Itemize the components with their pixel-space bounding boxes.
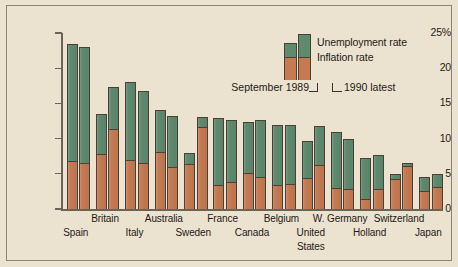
legend-swatch-group: September 1989 1990 latest [284,33,312,80]
legend-label-unemployment: Unemployment rate [317,36,407,48]
bar-segment-unemployment [420,178,429,193]
bar-segment-inflation [391,179,400,209]
bar-italy-sep-1989 [125,82,136,209]
bar-group [208,33,237,209]
bar-holland-sep-1989 [360,158,371,209]
bar-group [90,33,119,209]
bar-segment-unemployment [433,175,442,188]
bar-australia-1990-latest [167,116,178,209]
bar-france-1990-latest [226,120,237,209]
bar-segment-unemployment [97,115,106,155]
bar-switzerland-1990-latest [402,163,413,209]
bar-japan-1990-latest [432,174,443,209]
legend-note-september-1989: September 1989 [169,81,309,93]
bar-segment-unemployment [227,121,236,184]
bar-segment-unemployment [244,123,253,174]
bar-segment-inflation [126,160,135,209]
bar-group [120,33,149,209]
bar-united-states-sep-1989 [302,141,313,209]
bar-segment-unemployment [315,127,324,166]
bar-italy-1990-latest [138,91,149,209]
x-axis-label-japan: Japan [383,227,458,238]
bar-group [149,33,178,209]
leader-line-left-horizontal [309,91,318,92]
bar-segment-unemployment [126,83,135,161]
bar-segment-inflation [244,173,253,209]
bar-belgium-1990-latest [285,125,296,209]
bar-segment-inflation [97,154,106,209]
bar-segment-unemployment [286,126,295,185]
bar-segment-inflation [214,185,223,209]
legend-swatch-unemployment-a [285,44,296,58]
legend-swatch-inflation-b [299,57,310,80]
bar-britain-1990-latest [108,87,119,209]
x-axis-line [61,209,443,211]
bar-segment-inflation [420,191,429,209]
legend-swatch-1990-latest [298,34,311,80]
bar-segment-unemployment [361,159,370,200]
bar-united-states-1990-latest [314,126,325,209]
bar-spain-1990-latest [79,47,90,209]
bar-segment-unemployment [344,140,353,191]
bar-segment-unemployment [68,45,77,163]
bar-spain-sep-1989 [67,44,78,209]
bar-segment-unemployment [332,133,341,189]
bar-segment-inflation [227,182,236,209]
bar-france-sep-1989 [213,118,224,209]
bar-segment-inflation [433,187,442,209]
bar-belgium-sep-1989 [272,125,283,209]
bar-segment-unemployment [374,156,383,190]
bar-segment-inflation [286,184,295,209]
bar-segment-unemployment [273,126,282,186]
chart-plate: 0510152025% SpainBritainItalyAustraliaSw… [6,5,452,261]
legend-swatch-unemployment-b [299,35,310,58]
bar-segment-inflation [256,177,265,209]
bar-sweden-1990-latest [197,117,208,209]
chart-legend: September 1989 1990 latest Unemployment … [255,31,451,103]
bar-w-germany-sep-1989 [331,132,342,209]
bar-holland-1990-latest [373,155,384,209]
bar-segment-unemployment [109,88,118,130]
bar-segment-inflation [68,161,77,209]
bar-segment-inflation [198,127,207,209]
bar-japan-sep-1989 [419,177,430,209]
bar-segment-unemployment [156,111,165,153]
legend-swatch-september-1989 [284,43,297,80]
bar-segment-inflation [273,185,282,209]
bar-segment-inflation [80,163,89,209]
x-axis-label-united-states: States [266,241,356,252]
bar-segment-inflation [374,189,383,209]
bar-segment-unemployment [168,117,177,168]
bar-segment-unemployment [303,142,312,179]
legend-label-inflation: Inflation rate [317,51,373,63]
chart-figure: 0510152025% SpainBritainItalyAustraliaSw… [0,0,458,267]
bar-w-germany-1990-latest [343,139,354,209]
bar-group [61,33,90,209]
bar-segment-inflation [156,152,165,209]
bar-britain-sep-1989 [96,114,107,209]
legend-note-1990-latest: 1990 latest [344,81,395,93]
bar-segment-inflation [403,166,412,209]
bar-group [179,33,208,209]
bar-segment-inflation [361,199,370,209]
bar-segment-inflation [109,129,118,209]
bar-canada-sep-1989 [243,122,254,209]
bar-segment-inflation [344,189,353,209]
bar-switzerland-sep-1989 [390,174,401,209]
bar-segment-inflation [315,165,324,209]
bar-segment-inflation [185,164,194,209]
legend-swatch-inflation-a [285,57,296,80]
bar-segment-inflation [139,163,148,209]
bar-segment-unemployment [80,48,89,163]
bar-sweden-sep-1989 [184,153,195,209]
leader-line-right-horizontal [332,91,342,92]
bar-segment-unemployment [256,121,265,179]
x-axis-label-switzerland: Switzerland [354,213,444,224]
bar-segment-unemployment [139,92,148,164]
bar-australia-sep-1989 [155,110,166,209]
bar-canada-1990-latest [255,120,266,209]
bar-segment-inflation [168,167,177,209]
bar-segment-unemployment [214,119,223,186]
bar-segment-inflation [332,188,341,209]
bar-segment-inflation [303,178,312,209]
